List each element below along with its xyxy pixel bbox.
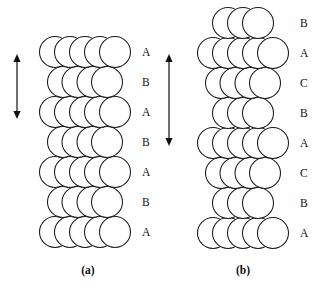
layer-label-a: A [142,106,151,118]
panel-caption: (a) [81,264,95,277]
sphere [250,158,281,189]
layer-label-a: A [142,166,151,178]
sphere [100,157,131,188]
layer-c [206,68,281,99]
layer-a [198,38,289,69]
sphere [243,98,274,129]
layer-label-a: A [300,47,309,59]
layer-b [213,98,274,129]
sphere [100,97,131,128]
sphere [258,38,289,69]
layer-a [40,97,131,128]
layer-b [213,188,274,219]
layer-label-a: A [300,137,309,149]
layer-a [40,157,131,188]
layer-a [40,217,131,248]
panel-caption: (b) [236,264,250,277]
sphere [92,127,123,158]
layer-label-c: C [300,167,308,179]
sphere [250,68,281,99]
layer-b [213,8,274,39]
layer-a [198,128,289,159]
layer-label-a: A [142,226,151,238]
layer-c [206,158,281,189]
figure-canvas: ABABABA(a)BACBACBA(b) [0,0,327,293]
sphere [243,188,274,219]
layer-label-b: B [142,196,150,208]
layer-b [48,127,123,158]
sphere [258,218,289,249]
layer-a [198,218,289,249]
layer-label-a: A [142,46,151,58]
sphere [258,128,289,159]
layer-label-b: B [300,107,308,119]
layer-label-c: C [300,77,308,89]
layer-label-b: B [300,17,308,29]
close-packed-stacking-figure: ABABABA(a)BACBACBA(b) [0,0,327,293]
layer-label-b: B [300,197,308,209]
sphere [100,217,131,248]
layer-b [48,187,123,218]
layer-label-b: B [142,136,150,148]
layer-a [40,37,131,68]
layer-label-a: A [300,227,309,239]
sphere [100,37,131,68]
sphere [92,187,123,218]
sphere [92,67,123,98]
layer-b [48,67,123,98]
sphere [243,8,274,39]
layer-label-b: B [142,76,150,88]
